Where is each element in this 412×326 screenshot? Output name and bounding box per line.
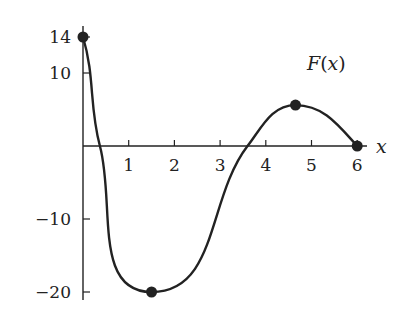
x-tick-label: 5 [306, 155, 317, 175]
marked-point [290, 100, 301, 111]
x-tick-label: 4 [260, 155, 271, 175]
marked-point [146, 287, 157, 298]
y-tick-label: 14 [49, 27, 71, 47]
x-axis-label: x [376, 135, 387, 157]
x-tick-label: 6 [352, 155, 363, 175]
x-tick-label: 3 [215, 155, 226, 175]
y-tick-label: −10 [35, 209, 71, 229]
y-tick-label: −20 [35, 282, 71, 302]
y-tick-label: 10 [49, 63, 71, 83]
x-tick-label: 2 [169, 155, 180, 175]
curve-label: F(x) [306, 52, 346, 74]
function-plot: 1234561410−10−20 x F(x) [0, 0, 412, 326]
marked-point [352, 141, 363, 152]
marked-point [78, 32, 89, 43]
x-tick-label: 1 [123, 155, 134, 175]
